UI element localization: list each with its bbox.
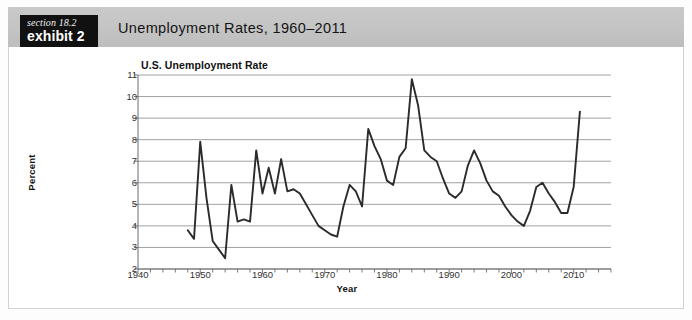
chart-area: U.S. Unemployment Rate Percent Year 2345… bbox=[9, 47, 685, 309]
y-tick-label: 5 bbox=[111, 199, 137, 208]
y-tick-label: 9 bbox=[111, 113, 137, 122]
chart-card: U.S. Unemployment Rate Percent Year 2345… bbox=[8, 47, 684, 309]
badge-exhibit-label: exhibit 2 bbox=[27, 28, 92, 44]
y-tick-label: 3 bbox=[111, 242, 137, 251]
chart-title: U.S. Unemployment Rate bbox=[141, 59, 268, 71]
y-tick-label: 8 bbox=[111, 135, 137, 144]
x-tick-label: 2010 bbox=[563, 269, 584, 280]
y-tick-label: 7 bbox=[111, 156, 137, 165]
x-tick-label: 1940 bbox=[127, 269, 148, 280]
exhibit-badge: section 18.2 exhibit 2 bbox=[20, 15, 98, 48]
x-axis-ticks: 19401950196019701980199020002010 bbox=[9, 269, 685, 283]
x-tick-label: 2000 bbox=[501, 269, 522, 280]
x-tick-label: 1970 bbox=[314, 269, 335, 280]
y-tick-label: 4 bbox=[111, 221, 137, 230]
x-tick-label: 1960 bbox=[252, 269, 273, 280]
exhibit-header-band: section 18.2 exhibit 2 Unemployment Rate… bbox=[8, 7, 684, 47]
x-tick-label: 1950 bbox=[190, 269, 211, 280]
y-axis-label: Percent bbox=[26, 133, 37, 213]
y-tick-label: 10 bbox=[111, 92, 137, 101]
exhibit-title: Unemployment Rates, 1960–2011 bbox=[118, 20, 347, 36]
x-tick-label: 1980 bbox=[376, 269, 397, 280]
y-tick-label: 6 bbox=[111, 178, 137, 187]
exhibit-page: section 18.2 exhibit 2 Unemployment Rate… bbox=[0, 0, 692, 320]
x-tick-label: 1990 bbox=[439, 269, 460, 280]
badge-section-label: section 18.2 bbox=[27, 17, 92, 28]
y-tick-label: 11 bbox=[111, 70, 137, 79]
